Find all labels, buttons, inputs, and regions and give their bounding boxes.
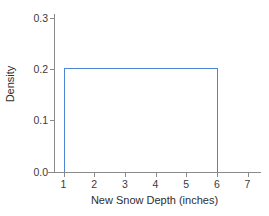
x-tick-label-7: 7 [236,178,260,191]
y-axis-title: Density [4,49,16,119]
x-tick-label-2: 2 [82,178,106,191]
y-tick-0-1 [50,120,54,121]
y-tick-label-0-3: 0.3 [2,12,48,25]
y-axis-line [54,14,55,172]
x-tick-7 [248,173,249,177]
x-tick-2 [94,173,95,177]
x-tick-label-3: 3 [113,178,137,191]
x-tick-3 [125,173,126,177]
x-tick-4 [156,173,157,177]
x-axis-title: New Snow Depth (inches) [48,194,261,206]
x-tick-label-1: 1 [52,178,76,191]
x-tick-label-5: 5 [174,178,198,191]
y-tick-0-2 [50,69,54,70]
x-tick-label-6: 6 [205,178,229,191]
x-tick-6 [217,173,218,177]
x-tick-label-4: 4 [144,178,168,191]
y-tick-0-3 [50,18,54,19]
density-plot-figure: 1 2 3 4 5 6 7 0.0 0.1 0.2 0.3 New Snow D… [0,0,269,216]
x-tick-1 [64,173,65,177]
uniform-density-rectangle [64,68,218,172]
x-tick-5 [186,173,187,177]
y-tick-label-0-0: 0.0 [2,166,48,179]
y-tick-0-0 [50,172,54,173]
